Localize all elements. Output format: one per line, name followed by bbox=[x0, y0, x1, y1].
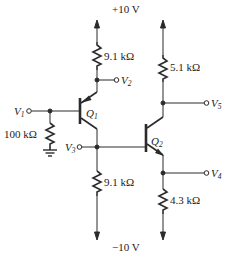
label-q2: Q2 bbox=[151, 135, 163, 149]
label-r-4k3: 4.3 kΩ bbox=[170, 194, 200, 206]
label-r-100k: 100 kΩ bbox=[4, 128, 37, 140]
resistor-4k3 bbox=[159, 189, 167, 214]
circuit-diagram: +10 V −10 V 9.1 kΩ 100 kΩ 9.1 kΩ 5.1 kΩ … bbox=[0, 0, 234, 262]
supply-arrow-up-left bbox=[95, 20, 100, 42]
supply-arrow-down-left bbox=[95, 196, 100, 240]
ground-icon bbox=[43, 150, 57, 156]
label-v5: V5 bbox=[211, 97, 222, 111]
resistor-9k1-bottom bbox=[93, 171, 101, 196]
supply-arrow-down-right bbox=[161, 214, 166, 240]
label-v1: V1 bbox=[14, 105, 24, 119]
label-supply-positive: +10 V bbox=[112, 3, 140, 15]
label-v4: V4 bbox=[211, 167, 222, 181]
terminal-v1 bbox=[27, 109, 32, 114]
resistor-9k1-top bbox=[93, 42, 101, 70]
terminal-v2 bbox=[114, 78, 119, 83]
label-supply-negative: −10 V bbox=[112, 241, 140, 253]
label-v2: V2 bbox=[121, 74, 132, 88]
label-r-9k1-bottom: 9.1 kΩ bbox=[104, 176, 134, 188]
label-q1: Q1 bbox=[86, 107, 98, 121]
terminal-v5 bbox=[204, 101, 209, 106]
resistor-5k1 bbox=[159, 55, 167, 82]
resistor-100k bbox=[46, 123, 54, 150]
terminal-v4 bbox=[204, 171, 209, 176]
label-v3: V3 bbox=[65, 141, 76, 155]
label-r-9k1-top: 9.1 kΩ bbox=[104, 50, 134, 62]
label-r-5k1: 5.1 kΩ bbox=[170, 61, 200, 73]
terminal-v3 bbox=[77, 145, 82, 150]
supply-arrow-up-right bbox=[161, 20, 166, 55]
